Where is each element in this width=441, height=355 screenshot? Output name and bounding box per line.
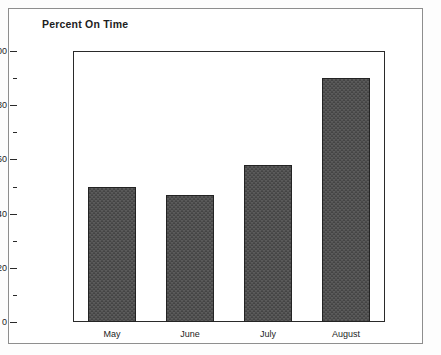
y-axis-tick-label: 60 — [0, 154, 7, 164]
y-axis-minor-tick — [13, 295, 17, 296]
bar-august — [322, 78, 370, 322]
plot-area — [73, 51, 385, 322]
x-axis-label-may: May — [103, 329, 120, 339]
y-axis-tick — [10, 268, 17, 269]
y-axis-tick-label: 100 — [0, 46, 7, 56]
y-axis-tick — [10, 322, 17, 323]
y-axis-tick — [10, 105, 17, 106]
y-axis-tick-label: 40 — [0, 209, 7, 219]
bar-may — [88, 187, 136, 323]
y-axis-minor-tick — [13, 78, 17, 79]
y-axis-minor-tick — [13, 187, 17, 188]
y-axis-tick — [10, 51, 17, 52]
y-axis-tick-label: 80 — [0, 100, 7, 110]
x-axis-label-june: June — [180, 329, 200, 339]
y-axis-tick-label: 0 — [2, 317, 7, 327]
y-axis-minor-tick — [13, 241, 17, 242]
x-axis-label-july: July — [260, 329, 276, 339]
x-axis-label-august: August — [332, 329, 360, 339]
chart-figure: Percent On Time 020406080100 MayJuneJuly… — [0, 0, 441, 355]
y-axis: 020406080100 — [0, 0, 73, 355]
y-axis-tick — [10, 214, 17, 215]
y-axis-tick-label: 20 — [0, 263, 7, 273]
bar-july — [244, 165, 292, 322]
y-axis-minor-tick — [13, 132, 17, 133]
bar-june — [166, 195, 214, 322]
y-axis-tick — [10, 159, 17, 160]
